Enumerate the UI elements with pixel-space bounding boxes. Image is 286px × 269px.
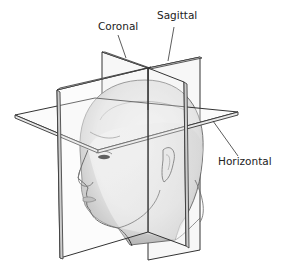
anatomical-planes-diagram: [0, 0, 286, 269]
sagittal-plane-front: [57, 67, 151, 259]
sagittal-label: Sagittal: [157, 9, 197, 21]
coronal-plane-front: [148, 68, 189, 248]
horizontal-label: Horizontal: [218, 155, 272, 167]
coronal-label: Coronal: [98, 20, 138, 32]
coronal-leader-line: [118, 35, 126, 58]
horizontal-leader-line: [213, 121, 238, 156]
sagittal-leader-line: [168, 27, 174, 61]
